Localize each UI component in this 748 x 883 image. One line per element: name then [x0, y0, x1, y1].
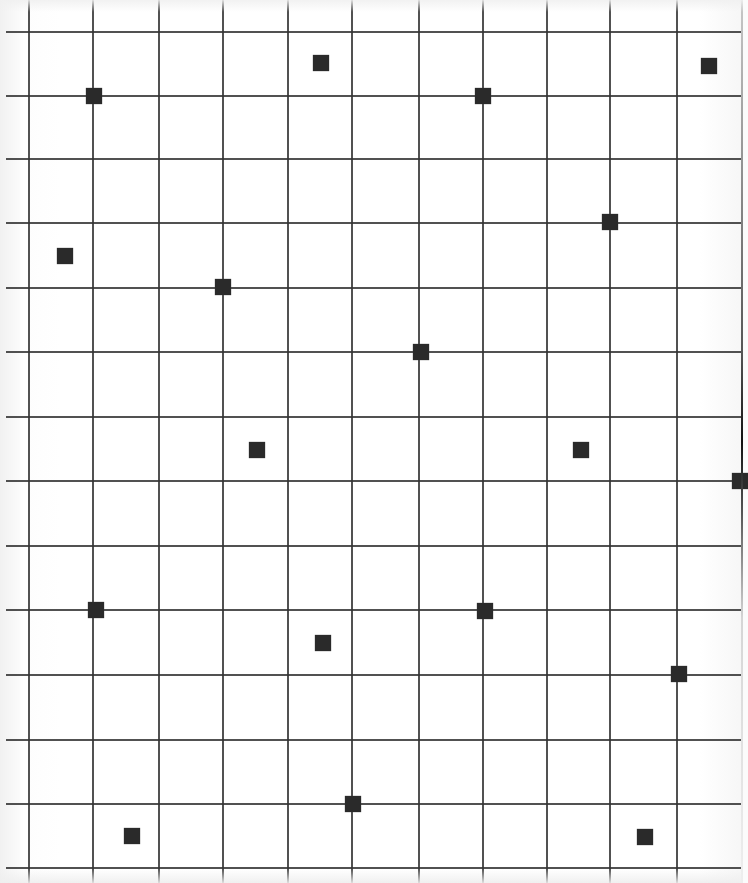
vertical-grid-line	[92, 0, 93, 883]
square-marker	[732, 473, 748, 489]
square-marker	[86, 88, 102, 104]
square-marker	[249, 442, 265, 458]
vertical-grid-line	[158, 0, 159, 883]
square-marker	[315, 635, 331, 651]
square-marker	[124, 828, 140, 844]
horizontal-grid-line	[6, 222, 743, 223]
horizontal-grid-line	[6, 416, 743, 417]
horizontal-grid-line	[6, 739, 743, 740]
square-marker	[573, 442, 589, 458]
vertical-grid-line	[418, 0, 419, 883]
square-marker	[701, 58, 717, 74]
bottom-edge-shade	[0, 869, 743, 883]
vertical-grid-line	[222, 0, 223, 883]
square-marker	[313, 55, 329, 71]
square-marker	[637, 829, 653, 845]
horizontal-grid-line	[6, 287, 743, 288]
vertical-grid-line	[546, 0, 547, 883]
square-marker	[475, 88, 491, 104]
square-marker	[477, 603, 493, 619]
square-marker	[671, 666, 687, 682]
vertical-grid-line	[287, 0, 288, 883]
horizontal-grid-line	[6, 545, 743, 546]
square-marker	[345, 796, 361, 812]
vertical-grid-line	[482, 0, 483, 883]
horizontal-grid-line	[6, 609, 743, 610]
square-marker	[88, 602, 104, 618]
horizontal-grid-line	[6, 95, 743, 96]
horizontal-grid-line	[6, 674, 743, 675]
square-marker	[215, 279, 231, 295]
square-marker	[413, 344, 429, 360]
vertical-grid-line	[28, 0, 29, 883]
horizontal-grid-line	[6, 480, 743, 481]
square-marker	[57, 248, 73, 264]
top-edge-shade	[0, 0, 743, 12]
horizontal-grid-line	[6, 31, 743, 32]
vertical-grid-line	[676, 0, 677, 883]
vertical-grid-line	[609, 0, 610, 883]
square-marker	[602, 214, 618, 230]
horizontal-grid-line	[6, 158, 743, 159]
vertical-grid-line	[351, 0, 352, 883]
right-edge-border	[741, 0, 743, 883]
horizontal-grid-line	[6, 351, 743, 352]
horizontal-grid-line	[6, 803, 743, 804]
